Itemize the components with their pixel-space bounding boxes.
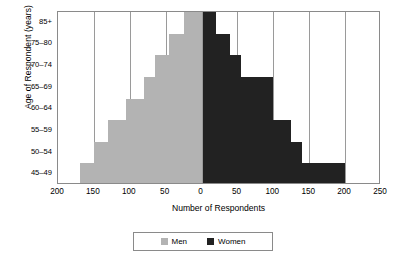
legend-entry: Men bbox=[161, 237, 188, 246]
bar-women bbox=[202, 142, 302, 164]
bar-women bbox=[202, 55, 241, 77]
bar-women bbox=[202, 77, 274, 99]
bar-men bbox=[80, 163, 202, 184]
y-tick-label: 70–74 bbox=[6, 60, 52, 69]
y-tick-label: 55–59 bbox=[6, 125, 52, 134]
x-tick-label: 250 bbox=[365, 187, 395, 196]
x-tick-label: 200 bbox=[329, 187, 359, 196]
population-pyramid-figure: Age of Respondent (years) 85+75–8070–746… bbox=[0, 0, 404, 263]
y-tick-label: 75–80 bbox=[6, 38, 52, 47]
x-tick-label: 50 bbox=[150, 187, 180, 196]
x-tick-label: 150 bbox=[293, 187, 323, 196]
x-tick-label: 0 bbox=[186, 187, 216, 196]
bar-women bbox=[202, 12, 216, 34]
x-tick-label: 100 bbox=[257, 187, 287, 196]
y-tick-label: 65–69 bbox=[6, 82, 52, 91]
chart-legend: MenWomen bbox=[133, 232, 273, 251]
x-tick-label: 100 bbox=[114, 187, 144, 196]
plot-area bbox=[57, 11, 380, 184]
bar-women bbox=[202, 34, 231, 56]
legend-swatch-icon bbox=[207, 238, 214, 245]
bar-men bbox=[169, 34, 201, 56]
y-tick-label: 60–64 bbox=[6, 103, 52, 112]
x-tick-label: 150 bbox=[78, 187, 108, 196]
gridline bbox=[345, 12, 346, 183]
bar-men bbox=[155, 55, 202, 77]
x-tick-label: 50 bbox=[221, 187, 251, 196]
bar-men bbox=[126, 99, 201, 121]
legend-entry: Women bbox=[207, 237, 245, 246]
bar-men bbox=[144, 77, 201, 99]
gridline-zero bbox=[202, 12, 203, 183]
y-tick-label: 45–49 bbox=[6, 168, 52, 177]
y-tick-label: 85+ bbox=[6, 17, 52, 26]
bar-women bbox=[202, 120, 292, 142]
y-tick-label: 50–54 bbox=[6, 147, 52, 156]
x-axis-title: Number of Respondents bbox=[57, 203, 380, 213]
bar-women bbox=[202, 99, 274, 121]
legend-label: Men bbox=[172, 237, 188, 246]
bar-women bbox=[202, 163, 346, 184]
bar-men bbox=[184, 12, 202, 34]
x-tick-label: 200 bbox=[42, 187, 72, 196]
legend-label: Women bbox=[218, 237, 245, 246]
bar-men bbox=[108, 120, 201, 142]
gridline bbox=[309, 12, 310, 183]
legend-swatch-icon bbox=[161, 238, 168, 245]
bar-men bbox=[94, 142, 202, 164]
